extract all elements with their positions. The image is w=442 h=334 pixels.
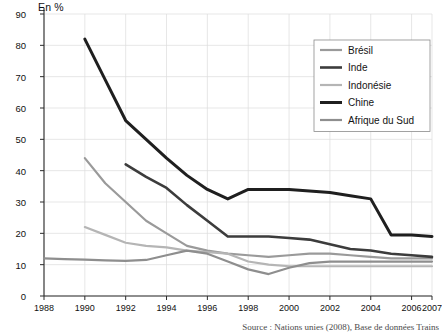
x-tick-label: 1992: [116, 303, 136, 313]
x-tick-label: 2004: [361, 303, 381, 313]
x-tick-label: 1996: [197, 303, 217, 313]
x-tick-label: 2000: [279, 303, 299, 313]
x-tick-label: 1990: [75, 303, 95, 313]
x-tick-label: 2006: [402, 303, 422, 313]
x-tick-label: 1988: [34, 303, 54, 313]
x-tick-label: 1998: [238, 303, 258, 313]
x-tick-label: 2002: [320, 303, 340, 313]
source-note: Source : Nations unies (2008), Base de d…: [242, 322, 439, 332]
x-tick-label: 1994: [157, 303, 177, 313]
x-tick-label: 2007: [422, 303, 442, 313]
